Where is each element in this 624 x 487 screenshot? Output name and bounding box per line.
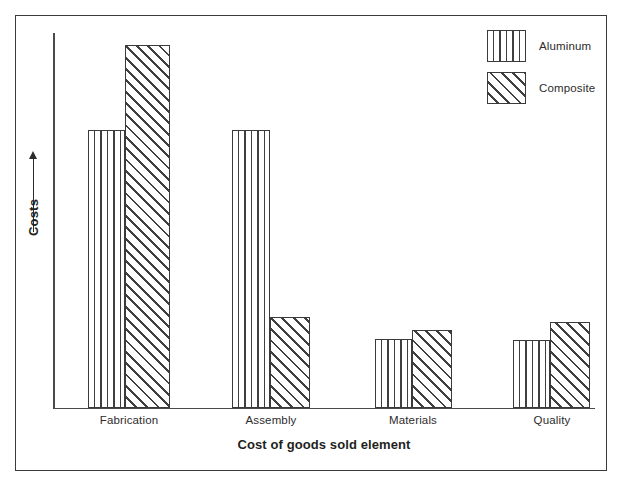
y-axis-line [53, 33, 55, 409]
plot-area: Fabrication Assembly Materials Quality C… [0, 0, 624, 487]
y-axis-title-group: Costs [14, 150, 52, 300]
xtick-label-fabrication: Fabrication [79, 414, 179, 426]
bar-quality-composite [550, 322, 590, 408]
bar-assembly-composite [270, 317, 310, 408]
legend-label-aluminum: Aluminum [539, 40, 591, 52]
bar-fabrication-composite [125, 45, 170, 408]
legend-swatch-diagonal-stripes-icon [487, 72, 526, 104]
x-axis-title: Cost of goods sold element [53, 437, 595, 452]
xtick-label-assembly: Assembly [221, 414, 321, 426]
y-axis-title: Costs [26, 158, 41, 278]
legend-item-aluminum: Aluminum [487, 30, 595, 62]
xtick-label-quality: Quality [502, 414, 602, 426]
bar-fabrication-aluminum [88, 130, 125, 408]
bar-materials-aluminum [375, 339, 412, 408]
legend-item-composite: Composite [487, 72, 595, 104]
legend-swatch-vertical-stripes-icon [487, 30, 526, 62]
legend: Aluminum Composite [487, 30, 595, 114]
chart-figure: Fabrication Assembly Materials Quality C… [0, 0, 624, 487]
bar-quality-aluminum [513, 340, 550, 408]
bar-materials-composite [412, 330, 452, 408]
legend-label-composite: Composite [539, 82, 595, 94]
bar-assembly-aluminum [232, 130, 270, 408]
xtick-label-materials: Materials [363, 414, 463, 426]
